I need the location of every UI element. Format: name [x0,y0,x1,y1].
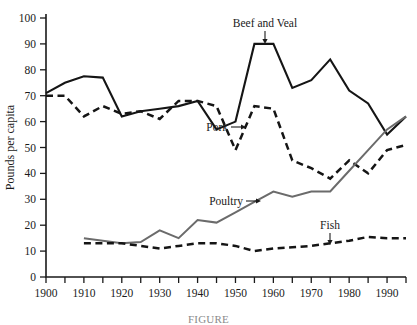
x-tick-label: 1960 [262,287,285,299]
x-tick-label: 1990 [376,287,399,299]
y-tick-label: 100 [19,12,37,24]
y-tick-label: 70 [25,90,37,102]
series-annotations: Beef and VealPorkPoultryFish [206,17,340,245]
figure-caption: FIGURE [0,313,417,325]
x-tick-label: 1910 [72,287,95,299]
x-tick-label: 1970 [300,287,323,299]
figure-container: 0102030405060708090100190019101920193019… [0,0,417,325]
y-tick-label: 90 [25,38,37,50]
y-tick-label: 80 [25,64,37,76]
x-tick-label: 1900 [35,287,58,299]
x-tick-label: 1940 [186,287,209,299]
series-line-poultry [84,116,406,243]
series-line-pork [46,96,406,179]
annotation-label-fish: Fish [320,219,340,231]
data-series [46,44,406,251]
annotation-label-beef-and-veal: Beef and Veal [233,17,297,29]
axis-tick-labels: 0102030405060708090100190019101920193019… [19,12,399,299]
annotation-label-pork: Pork [206,121,228,133]
line-chart: 0102030405060708090100190019101920193019… [0,0,417,325]
y-tick-label: 40 [25,167,37,179]
y-axis-label-text: Pounds per capita [3,104,17,190]
y-tick-label: 20 [25,219,37,231]
x-tick-label: 1950 [224,287,247,299]
y-tick-label: 60 [25,116,37,128]
axis-spines [46,14,406,277]
x-tick-label: 1980 [338,287,361,299]
y-tick-label: 10 [25,245,37,257]
x-tick-label: 1930 [148,287,171,299]
y-tick-label: 0 [30,271,36,283]
x-tick-label: 1920 [110,287,133,299]
series-line-fish [84,237,406,251]
annotation-label-poultry: Poultry [209,195,243,208]
axes [46,14,406,277]
y-tick-label: 50 [25,142,37,154]
y-axis-label: Pounds per capita [3,104,17,190]
y-tick-label: 30 [25,193,37,205]
